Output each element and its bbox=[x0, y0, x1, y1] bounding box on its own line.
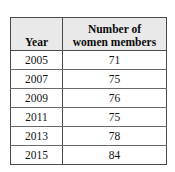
column-header-year: Year bbox=[11, 18, 63, 51]
cell-year: 2007 bbox=[11, 70, 63, 89]
column-header-women-members-line2: women members bbox=[64, 36, 165, 48]
cell-women-members: 84 bbox=[63, 146, 167, 165]
table-row: 2007 75 bbox=[11, 70, 167, 89]
cell-year: 2009 bbox=[11, 89, 63, 108]
cell-year: 2005 bbox=[11, 51, 63, 70]
cell-women-members: 78 bbox=[63, 127, 167, 146]
data-table-container: Year Number of women members 2005 71 200… bbox=[10, 17, 166, 164]
table-row: 2015 84 bbox=[11, 146, 167, 165]
table-header-row: Year Number of women members bbox=[11, 18, 167, 51]
cell-year: 2015 bbox=[11, 146, 63, 165]
column-header-women-members: Number of women members bbox=[63, 18, 167, 51]
table-row: 2013 78 bbox=[11, 127, 167, 146]
column-header-women-members-line1: Number of bbox=[64, 23, 165, 35]
women-members-table: Year Number of women members 2005 71 200… bbox=[10, 17, 167, 165]
table-body: 2005 71 2007 75 2009 76 2011 75 2013 78 … bbox=[11, 51, 167, 165]
cell-women-members: 75 bbox=[63, 70, 167, 89]
table-row: 2005 71 bbox=[11, 51, 167, 70]
cell-year: 2013 bbox=[11, 127, 63, 146]
table-row: 2009 76 bbox=[11, 89, 167, 108]
cell-women-members: 76 bbox=[63, 89, 167, 108]
table-header: Year Number of women members bbox=[11, 18, 167, 51]
cell-year: 2011 bbox=[11, 108, 63, 127]
cell-women-members: 71 bbox=[63, 51, 167, 70]
cell-women-members: 75 bbox=[63, 108, 167, 127]
table-row: 2011 75 bbox=[11, 108, 167, 127]
